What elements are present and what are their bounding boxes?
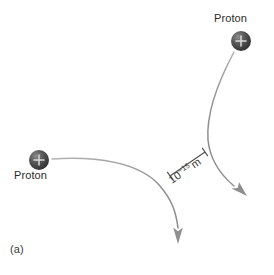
trajectory-left-arrowhead [173, 228, 183, 245]
proton-left-label: Proton [14, 169, 47, 181]
trajectory-right-path [208, 52, 234, 186]
proton-left [29, 150, 49, 170]
trajectory-right-proton [208, 52, 247, 196]
physics-figure-proton-scattering: 10−15m Proton Proton (a) [0, 0, 274, 275]
panel-label: (a) [10, 243, 24, 255]
trajectory-left-path [52, 158, 178, 228]
trajectory-left-proton [52, 158, 183, 244]
scale-marker: 10−15m [166, 148, 208, 186]
scale-label: 10−15m [166, 154, 203, 185]
trajectory-right-arrowhead [232, 182, 248, 196]
proton-right [231, 31, 251, 51]
figure-canvas: 10−15m [0, 0, 274, 275]
proton-right-label: Proton [214, 12, 247, 24]
scale-tick-end [202, 148, 208, 156]
